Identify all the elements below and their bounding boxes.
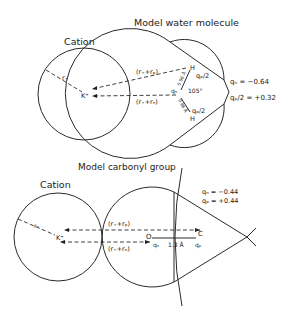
water-model: Model water molecule Cation r₊ K⁺ (r₊+rₚ… (38, 17, 276, 159)
upper-qp-half: qₚ/2 (196, 72, 209, 80)
oxygen-label: O (146, 233, 152, 241)
carbonyl-qn: qₙ (153, 241, 160, 249)
bond-length: 1.3 Å (168, 241, 184, 248)
bottom-cation-label: Cation (40, 179, 71, 190)
water-charge-qp: qₚ/2 = +0.32 (230, 94, 276, 102)
bottom-cation-symbol: K⁺ (56, 234, 64, 242)
carbonyl-charge-qn: qₙ = −0.44 (202, 188, 238, 196)
carbonyl-qp: qₚ (195, 241, 202, 249)
top-upper-distance: (r₊+rₚ) (136, 68, 158, 76)
oxygen-sphere-carbonyl (102, 187, 174, 287)
bond-angle: 105° (188, 87, 202, 94)
top-lower-distance-line (92, 95, 176, 96)
bottom-upper-distance: (r₊+rₚ) (108, 220, 130, 228)
lower-bond-length: 0.96 Å (177, 98, 190, 114)
bottom-radius-label: r₊ (34, 222, 40, 229)
carbon-cone-lower (174, 237, 247, 282)
carbonyl-title: Model carbonyl group (78, 162, 176, 172)
lower-qp-half: qₚ/2 (192, 107, 205, 115)
top-qn-center: qₙ (171, 87, 178, 95)
water-charge-qn: qₙ = −0.64 (230, 78, 270, 86)
diagram-canvas: Model water molecule Cation r₊ K⁺ (r₊+rₚ… (0, 0, 282, 318)
upper-hydrogen: H (190, 64, 195, 72)
carbon-boundary-arc (175, 168, 182, 306)
top-cation-label: Cation (64, 36, 95, 47)
lower-hydrogen: H (190, 115, 195, 123)
top-lower-distance: (r₊+rₙ) (136, 98, 158, 106)
carbonyl-charge-qp: qₚ = +0.44 (202, 197, 238, 205)
water-title: Model water molecule (134, 17, 239, 28)
carbonyl-model: Model carbonyl group Cation r₊ K⁺ qₙ = −… (14, 162, 256, 306)
carbon-label: C (198, 230, 203, 238)
bottom-lower-distance: (r₊+rₙ) (108, 245, 130, 253)
upper-bond-length: 0.96 Å (175, 70, 187, 87)
top-cation-symbol: K⁺ (81, 92, 89, 100)
